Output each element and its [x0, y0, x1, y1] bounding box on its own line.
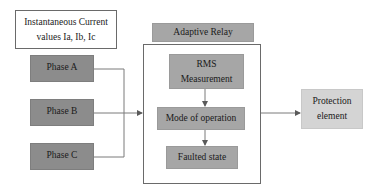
phase-a-label: Phase A — [47, 60, 78, 75]
protection-line2: element — [317, 109, 347, 124]
phase-a-block: Phase A — [30, 55, 94, 82]
mode-label: Mode of operation — [166, 111, 237, 126]
adaptive-relay-title: Adaptive Relay — [152, 23, 254, 42]
protection-line1: Protection — [312, 94, 351, 109]
protection-element-block: Protection element — [301, 89, 363, 129]
input-line1: Instantaneous Current — [24, 15, 108, 30]
faulted-label: Faulted state — [178, 150, 226, 165]
rms-measurement-block: RMS Measurement — [169, 54, 244, 89]
phase-c-block: Phase C — [30, 143, 94, 170]
phase-a-connector — [94, 69, 124, 113]
mode-of-operation-block: Mode of operation — [157, 107, 245, 130]
phase-b-label: Phase B — [47, 104, 78, 119]
phase-c-connector — [94, 113, 124, 157]
input-line2: values Ia, Ib, Ic — [37, 30, 96, 45]
input-current-label: Instantaneous Current values Ia, Ib, Ic — [15, 10, 117, 49]
phase-c-label: Phase C — [47, 148, 78, 163]
relay-title-text: Adaptive Relay — [173, 25, 232, 40]
rms-line1: RMS — [196, 57, 216, 72]
faulted-state-block: Faulted state — [166, 146, 238, 169]
rms-line2: Measurement — [181, 72, 233, 87]
phase-b-block: Phase B — [30, 99, 94, 126]
